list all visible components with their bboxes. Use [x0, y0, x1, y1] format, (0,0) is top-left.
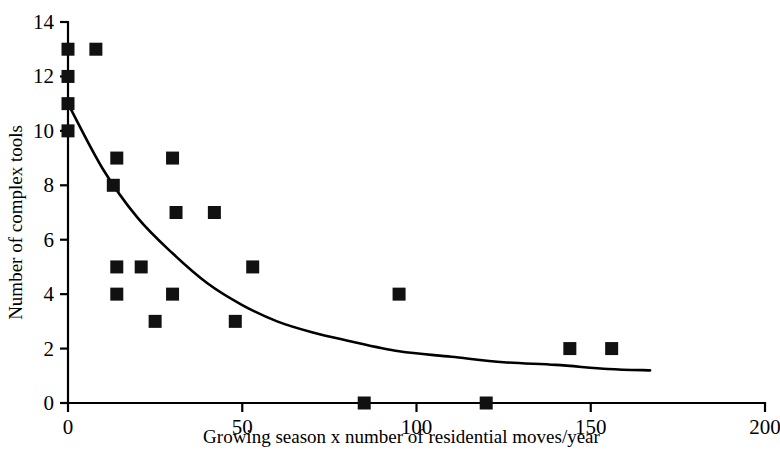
data-point [563, 342, 576, 355]
data-point [149, 315, 162, 328]
data-point [107, 179, 120, 192]
data-point [170, 206, 183, 219]
y-axis-title: Number of complex tools [5, 125, 26, 320]
x-axis-title: Growing season x number of residential m… [203, 426, 600, 447]
y-tick-label: 4 [44, 282, 55, 306]
data-point [110, 288, 123, 301]
data-point [246, 260, 259, 273]
data-point [110, 152, 123, 165]
data-point [605, 342, 618, 355]
data-point [62, 124, 75, 137]
data-point [208, 206, 221, 219]
chart-canvas: 02468101214 050100150200 Growing season … [0, 0, 780, 450]
x-tick-label: 0 [63, 415, 74, 439]
data-point [62, 70, 75, 83]
data-point [166, 288, 179, 301]
data-point [89, 43, 102, 56]
x-axis-tick-marks [68, 403, 765, 412]
data-point [166, 152, 179, 165]
y-axis-tick-labels: 02468101214 [33, 10, 55, 415]
data-point [480, 397, 493, 410]
fit-curve [68, 104, 650, 371]
y-tick-label: 14 [33, 10, 55, 34]
scatter-chart: 02468101214 050100150200 Growing season … [0, 0, 780, 450]
y-tick-label: 0 [44, 391, 55, 415]
y-tick-label: 10 [33, 119, 54, 143]
data-point [62, 97, 75, 110]
data-point [135, 260, 148, 273]
x-tick-label: 200 [749, 415, 780, 439]
data-point [358, 397, 371, 410]
data-point [110, 260, 123, 273]
data-point [229, 315, 242, 328]
y-tick-label: 6 [44, 228, 55, 252]
data-point [393, 288, 406, 301]
y-tick-label: 8 [44, 173, 55, 197]
y-tick-label: 2 [44, 337, 55, 361]
data-point [62, 43, 75, 56]
y-tick-label: 12 [33, 64, 54, 88]
